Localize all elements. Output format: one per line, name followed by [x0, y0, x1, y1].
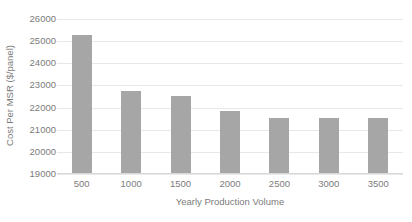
- y-axis-tick-label: 19000: [16, 169, 56, 179]
- y-axis-tick-labels: 2600025000240002300022000210002000019000: [16, 0, 56, 222]
- bar-slot: [156, 19, 205, 174]
- y-axis-tick-label: 20000: [16, 147, 56, 157]
- x-axis-tick-label: 2500: [269, 178, 290, 189]
- bar[interactable]: [220, 111, 240, 174]
- bar[interactable]: [319, 118, 339, 174]
- y-axis-tick-label: 26000: [16, 14, 56, 24]
- x-axis-tick-labels: 500100015002000250030003500: [57, 178, 403, 194]
- bar-slot: [57, 19, 106, 174]
- y-axis-tick-label: 21000: [16, 125, 56, 135]
- bar-slot: [205, 19, 254, 174]
- bar[interactable]: [269, 118, 289, 174]
- x-axis-tick-label: 1000: [121, 178, 142, 189]
- bar-chart: Cost Per MSR ($/panel) 26000250002400023…: [0, 0, 412, 222]
- bar[interactable]: [171, 96, 191, 174]
- plot-area: [57, 19, 403, 174]
- x-axis-tick-label: 3000: [318, 178, 339, 189]
- y-axis-title-label: Cost Per MSR ($/panel): [4, 45, 15, 146]
- y-axis-tick-label: 23000: [16, 80, 56, 90]
- bar[interactable]: [121, 91, 141, 174]
- x-axis-tick-label: 500: [74, 178, 90, 189]
- x-axis-line: [57, 173, 403, 174]
- y-axis-tick-label: 22000: [16, 103, 56, 113]
- bar-slot: [255, 19, 304, 174]
- bars-group: [57, 19, 403, 174]
- bar[interactable]: [72, 35, 92, 175]
- bar-slot: [106, 19, 155, 174]
- x-axis-tick-label: 1500: [170, 178, 191, 189]
- x-axis-tick-label: 3500: [368, 178, 389, 189]
- bar-slot: [354, 19, 403, 174]
- y-axis-tick-label: 24000: [16, 58, 56, 68]
- bar-slot: [304, 19, 353, 174]
- gridline: [57, 174, 403, 175]
- x-axis-title: Yearly Production Volume: [57, 196, 403, 207]
- y-axis-tick-label: 25000: [16, 36, 56, 46]
- x-axis-tick-label: 2000: [219, 178, 240, 189]
- bar[interactable]: [368, 118, 388, 174]
